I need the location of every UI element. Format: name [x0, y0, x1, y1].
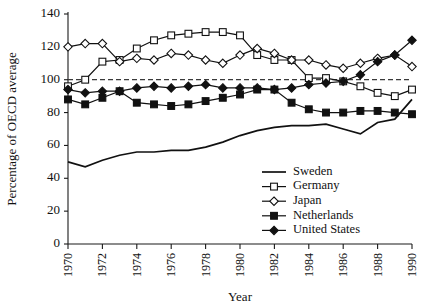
data-point [322, 61, 330, 69]
data-point [167, 84, 175, 92]
legend-swatch-marker [271, 183, 278, 190]
data-point [219, 94, 226, 101]
legend-label: United States [293, 222, 360, 236]
data-point [133, 54, 141, 62]
y-tick-label: 100 [41, 71, 61, 86]
data-point [340, 109, 347, 116]
data-point [99, 58, 106, 65]
data-point [237, 32, 244, 39]
data-point [305, 106, 312, 113]
x-tick-label: 1988 [371, 253, 385, 277]
x-axis-title: Year [228, 289, 253, 304]
x-tick-label: 1978 [199, 253, 213, 277]
x-tick-label: 1974 [130, 253, 144, 277]
data-point [65, 96, 72, 103]
y-tick-label: 140 [41, 5, 61, 20]
data-point [374, 108, 381, 115]
x-tick-label: 1972 [95, 253, 109, 277]
data-point [82, 101, 89, 108]
data-point [219, 59, 227, 67]
data-point [219, 29, 226, 36]
data-point [357, 83, 364, 90]
line-chart: 0204060801001201401970197219741976197819… [0, 0, 421, 307]
x-tick-label: 1986 [336, 253, 350, 277]
y-axis-title: Percentage of OECD average [4, 52, 19, 206]
data-point [408, 62, 416, 70]
data-point [202, 98, 209, 105]
series-japan [64, 39, 416, 72]
x-tick-label: 1990 [405, 253, 419, 277]
data-point [151, 101, 158, 108]
y-tick-label: 20 [47, 202, 60, 217]
data-point [81, 39, 89, 47]
data-point [374, 89, 381, 96]
data-point [236, 51, 244, 59]
data-point [151, 37, 158, 44]
legend-label: Germany [293, 178, 340, 192]
data-point [409, 86, 416, 93]
y-tick-label: 40 [47, 169, 60, 184]
data-point [133, 45, 140, 52]
legend-label: Japan [293, 193, 322, 207]
data-point [150, 56, 158, 64]
data-point [184, 51, 192, 59]
legend-swatch-marker [270, 197, 278, 205]
data-point [356, 59, 364, 67]
data-point [168, 103, 175, 110]
data-point [391, 109, 398, 116]
legend-item[interactable]: United States [262, 222, 360, 236]
data-point [357, 108, 364, 115]
data-point [305, 56, 313, 64]
data-point [133, 84, 141, 92]
legend-item[interactable]: Germany [262, 178, 340, 192]
data-point [185, 30, 192, 37]
legend-label: Sweden [293, 164, 333, 178]
x-tick-label: 1976 [164, 253, 178, 277]
data-point [391, 93, 398, 100]
data-point [185, 101, 192, 108]
data-point [64, 43, 72, 51]
data-point [150, 82, 158, 90]
y-tick-label: 80 [47, 104, 60, 119]
data-point [287, 84, 295, 92]
data-point [82, 76, 89, 83]
data-point [81, 89, 89, 97]
data-point [133, 99, 140, 106]
chart-container: 0204060801001201401970197219741976197819… [0, 0, 421, 307]
legend-label: Netherlands [293, 208, 354, 222]
x-tick-label: 1982 [267, 253, 281, 277]
y-tick-label: 120 [41, 38, 61, 53]
data-point [323, 109, 330, 116]
data-point [202, 29, 209, 36]
x-tick-label: 1980 [233, 253, 247, 277]
legend-item[interactable]: Netherlands [262, 208, 354, 222]
data-point [184, 82, 192, 90]
data-point [288, 99, 295, 106]
data-point [168, 32, 175, 39]
data-point [167, 49, 175, 57]
data-point [409, 111, 416, 118]
legend-item[interactable]: Sweden [262, 164, 333, 178]
legend-swatch-marker [270, 226, 278, 234]
y-tick-label: 60 [47, 136, 60, 151]
legend: SwedenGermanyJapanNetherlandsUnited Stat… [262, 164, 360, 236]
data-point [219, 84, 227, 92]
data-point [201, 56, 209, 64]
x-tick-label: 1970 [61, 253, 75, 277]
data-point [201, 80, 209, 88]
legend-item[interactable]: Japan [262, 193, 322, 207]
data-point [339, 64, 347, 72]
y-tick-label: 0 [54, 235, 61, 250]
legend-swatch-marker [271, 212, 278, 219]
x-tick-label: 1984 [302, 253, 316, 277]
